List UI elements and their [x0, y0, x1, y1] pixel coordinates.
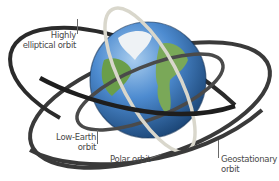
highly-elliptical-label-line1: Highly [44, 30, 76, 40]
low-earth-leader-line [97, 130, 98, 144]
highly-elliptical-label-line2: elliptical orbit [20, 40, 76, 50]
geostationary-leader-line [218, 140, 219, 158]
polar-orbit-label: Polar orbit [110, 154, 160, 164]
orbit-diagram: Highly elliptical orbit Low-Earth orbit … [0, 0, 279, 181]
highly-elliptical-leader-line [77, 19, 78, 34]
geostationary-label-line2: orbit [221, 164, 279, 174]
geostationary-label-line1: Geostationary [221, 154, 279, 164]
low-earth-label-line1: Low-Earth [52, 132, 96, 142]
low-earth-label-line2: orbit [52, 142, 96, 152]
